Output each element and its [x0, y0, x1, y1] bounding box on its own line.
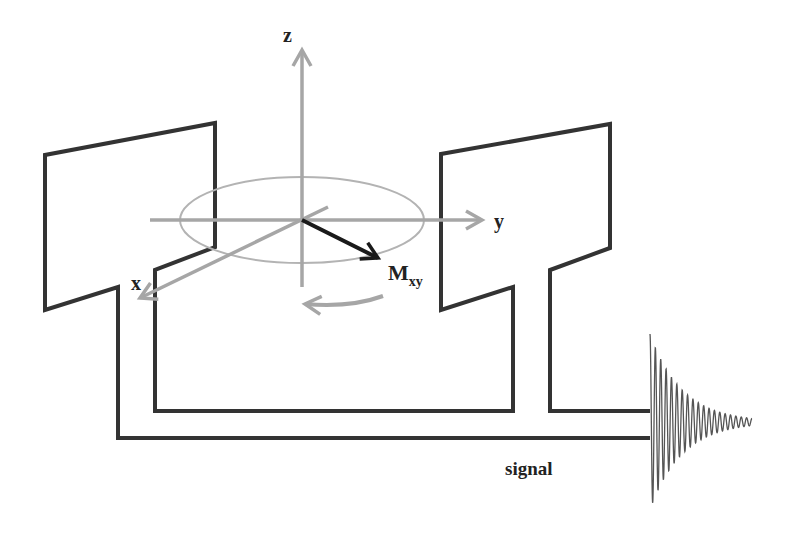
z-axis-label: z	[283, 24, 292, 46]
magnetization-vector	[302, 220, 378, 258]
magnetization-label: Mxy	[388, 260, 423, 289]
x-axis-label: x	[131, 272, 141, 294]
signal-label: signal	[505, 458, 553, 479]
y-axis-label: y	[494, 210, 504, 233]
nmr-coil-diagram: z y x Mxy signal	[0, 0, 787, 536]
fid-signal	[650, 334, 752, 503]
rotation-arrow	[305, 296, 383, 305]
